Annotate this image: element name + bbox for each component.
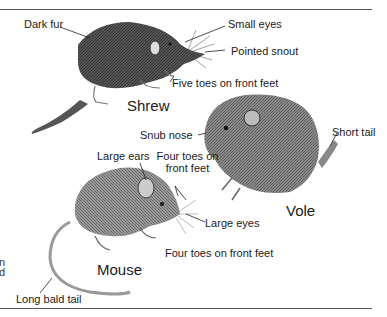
- label-dark-fur: Dark fur: [24, 18, 63, 30]
- label-pointed-snout: Pointed snout: [231, 45, 298, 57]
- label-small-eyes: Small eyes: [228, 18, 282, 30]
- label-large-ears: Large ears: [97, 150, 150, 162]
- label-snub-nose: Snub nose: [140, 129, 193, 141]
- vole-illustration: [204, 95, 338, 200]
- animal-name-mouse: Mouse: [97, 262, 142, 278]
- label-five-toes: Five toes on front feet: [172, 77, 278, 89]
- animal-name-vole: Vole: [286, 203, 315, 219]
- label-four-toes-mouse: Four toes on front feet: [165, 247, 273, 259]
- animal-name-shrew: Shrew: [127, 98, 170, 114]
- label-large-eyes: Large eyes: [205, 217, 259, 229]
- label-long-bald-tail: Long bald tail: [16, 293, 81, 305]
- label-short-tail: Short tail: [332, 126, 375, 138]
- label-four-toes-vole-text: Four toes on front feet: [157, 150, 219, 174]
- cropped-text-fragment: d: [0, 266, 5, 278]
- label-four-toes-vole: Four toes on front feet: [150, 150, 225, 174]
